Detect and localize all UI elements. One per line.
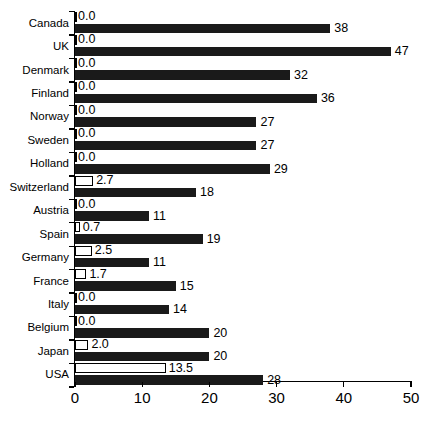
chart-row: 2.020 — [75, 339, 411, 362]
outlined-bar — [75, 12, 77, 22]
category-label: France — [0, 269, 72, 292]
solid-bar-value: 15 — [180, 281, 194, 292]
y-axis-notch — [69, 81, 74, 82]
category-label: Holland — [0, 152, 72, 175]
category-label: USA — [0, 363, 72, 386]
outlined-bar-value: 0.0 — [78, 128, 95, 139]
category-label: Spain — [0, 222, 72, 245]
y-axis-notch — [69, 11, 74, 12]
chart-row: 0.719 — [75, 222, 411, 245]
chart-row: 0.027 — [75, 105, 411, 128]
chart-row: 0.047 — [75, 34, 411, 57]
outlined-bar-value: 2.7 — [96, 175, 113, 186]
category-label: Austria — [0, 199, 72, 222]
outlined-bar — [75, 363, 166, 373]
x-axis-tick — [209, 382, 210, 387]
solid-bar-value: 19 — [207, 234, 221, 245]
solid-bar-value: 27 — [260, 140, 274, 151]
solid-bar-value: 28 — [267, 375, 281, 386]
category-label: Italy — [0, 292, 72, 315]
y-axis-notch — [69, 246, 74, 247]
chart-row: 0.038 — [75, 11, 411, 34]
chart-row: 1.715 — [75, 269, 411, 292]
outlined-bar-value: 1.7 — [89, 269, 106, 280]
solid-bar — [75, 305, 169, 315]
outlined-bar-value: 0.0 — [78, 292, 95, 303]
chart-row: 0.011 — [75, 199, 411, 222]
bar-chart: Canada UK Denmark Finland Norway Sweden … — [0, 0, 432, 433]
outlined-bar-value: 0.0 — [78, 11, 95, 22]
y-axis-notch — [69, 199, 74, 200]
outlined-bar — [75, 176, 93, 186]
outlined-bar-value: 0.0 — [78, 152, 95, 163]
outlined-bar — [75, 293, 77, 303]
outlined-bar — [75, 129, 77, 139]
solid-bar — [75, 94, 317, 104]
solid-bar-value: 14 — [173, 304, 187, 315]
outlined-bar — [75, 82, 77, 92]
plot-area: 0.0380.0470.0320.0360.0270.0270.0292.718… — [75, 11, 411, 382]
category-label: Sweden — [0, 128, 72, 151]
solid-bar — [75, 70, 290, 80]
x-axis-tick — [410, 382, 411, 387]
outlined-bar — [75, 316, 77, 326]
y-axis-notch — [69, 316, 74, 317]
x-axis-tick — [74, 382, 75, 387]
x-axis-tick-label: 10 — [134, 389, 151, 406]
category-label: Japan — [0, 339, 72, 362]
solid-bar — [75, 258, 149, 268]
y-axis-notch — [69, 363, 74, 364]
outlined-bar — [75, 199, 77, 209]
outlined-bar — [75, 222, 80, 232]
outlined-bar-value: 0.0 — [78, 316, 95, 327]
outlined-bar — [75, 35, 77, 45]
x-axis-tick-label: 20 — [201, 389, 218, 406]
category-label: Germany — [0, 245, 72, 268]
solid-bar — [75, 117, 256, 127]
outlined-bar — [75, 105, 77, 115]
outlined-bar — [75, 152, 77, 162]
category-label: Belgium — [0, 316, 72, 339]
solid-bar-value: 11 — [153, 257, 166, 268]
outlined-bar-value: 0.0 — [78, 58, 95, 69]
y-axis-notch — [69, 58, 74, 59]
x-axis-tick-label: 50 — [403, 389, 420, 406]
outlined-bar-value: 13.5 — [169, 363, 193, 374]
chart-row: 0.027 — [75, 128, 411, 151]
solid-bar — [75, 141, 256, 151]
outlined-bar-value: 0.7 — [83, 222, 100, 233]
category-label: UK — [0, 34, 72, 57]
solid-bar-value: 36 — [321, 93, 335, 104]
chart-row: 0.036 — [75, 81, 411, 104]
solid-bar-value: 27 — [260, 117, 274, 128]
y-axis-notch — [69, 105, 74, 106]
chart-row: 2.511 — [75, 245, 411, 268]
chart-row: 0.014 — [75, 292, 411, 315]
chart-row: 13.528 — [75, 363, 411, 386]
solid-bar — [75, 188, 196, 198]
solid-bar-value: 47 — [395, 46, 409, 57]
x-axis-tick-label: 30 — [268, 389, 285, 406]
solid-bar-value: 11 — [153, 211, 166, 222]
x-axis-tick — [276, 382, 277, 387]
y-axis-notch — [69, 292, 74, 293]
y-axis-notch — [69, 269, 74, 270]
solid-bar — [75, 352, 209, 362]
solid-bar-value: 20 — [213, 328, 227, 339]
y-axis-notch — [69, 128, 74, 129]
category-label: Finland — [0, 81, 72, 104]
solid-bar — [75, 47, 391, 57]
x-axis-tick-label: 40 — [335, 389, 352, 406]
outlined-bar-value: 0.0 — [78, 199, 95, 210]
outlined-bar — [75, 58, 77, 68]
outlined-bar-value: 0.0 — [78, 81, 95, 92]
y-axis-notch — [69, 222, 74, 223]
y-axis-notch — [69, 175, 74, 176]
solid-bar-value: 38 — [334, 23, 348, 34]
solid-bar-value: 32 — [294, 70, 308, 81]
x-axis-tick — [343, 382, 344, 387]
outlined-bar-value: 2.5 — [95, 245, 112, 256]
solid-bar-value: 29 — [274, 164, 288, 175]
y-axis-notch — [69, 152, 74, 153]
y-axis-notch — [69, 34, 74, 35]
